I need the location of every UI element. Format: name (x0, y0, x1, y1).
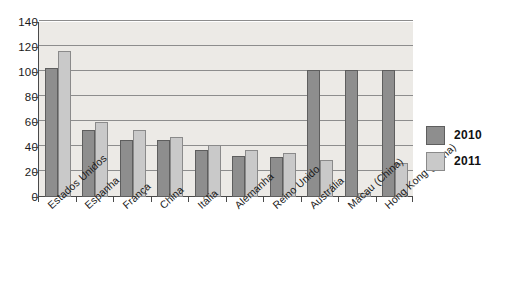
bar-2010 (45, 68, 58, 197)
bar-group (264, 22, 302, 197)
legend-swatch-2010-icon (426, 126, 445, 145)
legend-swatch-2011-icon (426, 152, 445, 171)
chart-legend: 2010 2011 (426, 122, 482, 174)
bar-chart: 020406080100120140 Estados UnidosEspanha… (0, 0, 511, 303)
bar-group (189, 22, 227, 197)
bar-group (114, 22, 152, 197)
legend-label-2011: 2011 (454, 154, 481, 168)
legend-entry-2011: 2011 (426, 148, 482, 174)
x-axis-labels: Estados UnidosEspanhaFrançaChinaItáliaAl… (0, 200, 470, 300)
bar-group (152, 22, 190, 197)
bar-group (39, 22, 77, 197)
bar-2010 (120, 140, 133, 198)
bar-2011 (58, 51, 71, 197)
bar-2010 (157, 140, 170, 198)
y-axis: 020406080100120140 (0, 22, 38, 197)
legend-label-2010: 2010 (454, 128, 482, 142)
bar-group (227, 22, 265, 197)
bar-2010 (195, 150, 208, 198)
legend-entry-2010: 2010 (426, 122, 482, 148)
bar-2010 (345, 70, 358, 198)
bar-group (339, 22, 377, 197)
gridline-140 (39, 20, 413, 21)
